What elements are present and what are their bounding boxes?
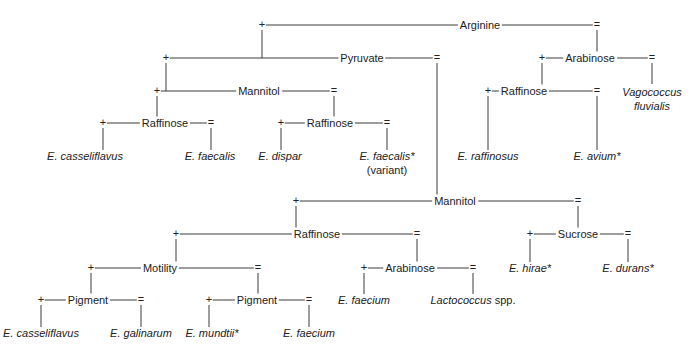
test-pyruvate: Pyruvate	[338, 52, 385, 65]
minus-marker: =	[137, 294, 145, 305]
plus-marker: +	[153, 85, 161, 96]
plus-marker: +	[277, 117, 285, 128]
minus-marker: =	[413, 228, 421, 239]
minus-marker: =	[469, 262, 477, 273]
test-mannitol-left: Mannitol	[236, 85, 282, 98]
species-e-avium: E. avium*	[573, 149, 620, 163]
minus-marker: =	[593, 19, 601, 30]
species-e-mundtii: E. mundtii*	[185, 326, 238, 340]
species-e-faecium: E. faecium	[338, 293, 390, 307]
test-raffinose-left: Raffinose	[140, 117, 190, 130]
species-e-galinarum: E. galinarum	[110, 326, 172, 340]
test-pigment-left: Pigment	[66, 294, 110, 307]
test-sucrose: Sucrose	[556, 228, 600, 241]
plus-marker: +	[162, 52, 170, 63]
plus-marker: +	[37, 294, 45, 305]
species-e-raffinosus: E. raffinosus	[457, 149, 518, 163]
variant-note: (variant)	[367, 164, 407, 176]
test-raffinose-lower: Raffinose	[292, 228, 342, 241]
minus-marker: =	[305, 294, 313, 305]
minus-marker: =	[648, 52, 656, 63]
plus-marker: +	[526, 228, 534, 239]
minus-marker: =	[207, 117, 215, 128]
test-arginine: Arginine	[458, 19, 502, 32]
plus-marker: +	[172, 228, 180, 239]
plus-marker: +	[360, 262, 368, 273]
species-e-faecalis: E. faecalis	[185, 149, 236, 163]
plus-marker: +	[538, 52, 546, 63]
minus-marker: =	[574, 195, 582, 206]
minus-marker: =	[383, 117, 391, 128]
plus-marker: +	[87, 262, 95, 273]
minus-marker: =	[330, 85, 338, 96]
minus-marker: =	[433, 52, 441, 63]
test-motility: Motility	[141, 262, 179, 275]
test-arabinose-lower: Arabinose	[383, 262, 437, 275]
species-e-durans: E. durans*	[602, 261, 653, 275]
species-e-casseliflavus: E. casseliflavus	[47, 149, 123, 163]
species-e-faecium-2: E. faecium	[283, 326, 335, 340]
test-raffinose-right-top: Raffinose	[499, 85, 549, 98]
plus-marker: +	[205, 294, 213, 305]
minus-marker: =	[593, 85, 601, 96]
test-mannitol-lower: Mannitol	[432, 195, 478, 208]
plus-marker: +	[292, 195, 300, 206]
test-arabinose-top: Arabinose	[563, 52, 617, 65]
species-e-faecalis-variant: E. faecalis* (variant)	[359, 149, 414, 177]
plus-marker: +	[258, 19, 266, 30]
species-vagococcus-fluvialis: Vagococcus fluvialis	[622, 85, 682, 113]
test-pigment-right: Pigment	[235, 294, 279, 307]
plus-marker: +	[99, 117, 107, 128]
species-e-dispar: E. dispar	[258, 149, 301, 163]
minus-marker: =	[624, 228, 632, 239]
plus-marker: +	[484, 85, 492, 96]
species-lactococcus-spp: Lactococcus spp.	[430, 293, 515, 307]
minus-marker: =	[254, 262, 262, 273]
test-raffinose-mid: Raffinose	[305, 117, 355, 130]
species-e-hirae: E. hirae*	[509, 261, 551, 275]
species-e-casseliflavus-2: E. casseliflavus	[3, 326, 79, 340]
